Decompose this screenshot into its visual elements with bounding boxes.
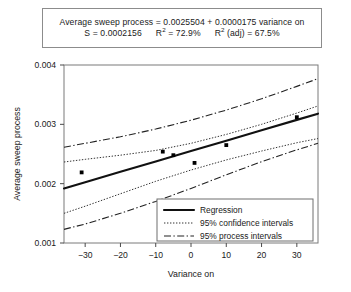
x-tick-label: −10 [148, 250, 163, 260]
caption-equation: Average sweep process = 0.0025504 + 0.00… [60, 17, 305, 28]
caption-r-squared: R2 = 72.9% [156, 28, 201, 39]
plot-svg: −30−20−100102030 0.0010.0020.0030.004 Re… [0, 52, 351, 292]
x-tick-label: 10 [221, 250, 231, 260]
regression-caption-box: Average sweep process = 0.0025504 + 0.00… [42, 8, 322, 48]
data-point [193, 161, 197, 165]
curve [64, 79, 318, 148]
data-points [80, 115, 299, 174]
legend-label: 95% process intervals [200, 231, 282, 241]
curve [64, 106, 318, 162]
curve [64, 114, 318, 189]
y-tick-label: 0.001 [34, 238, 56, 248]
data-point [171, 153, 175, 157]
data-point [161, 150, 165, 154]
y-tick-label: 0.003 [34, 119, 56, 129]
y-axis-label: Average sweep process [12, 107, 22, 201]
legend-label: 95% confidence intervals [200, 218, 293, 228]
y-tick-label: 0.004 [34, 60, 56, 70]
x-tick-label: 20 [257, 250, 267, 260]
data-point [224, 143, 228, 147]
y-tick-label: 0.002 [34, 179, 56, 189]
scatter-plot: −30−20−100102030 0.0010.0020.0030.004 Re… [0, 52, 351, 292]
x-tick-label: 0 [189, 250, 194, 260]
x-axis-ticks: −30−20−100102030 [78, 243, 302, 260]
data-point [295, 115, 299, 119]
data-point [80, 170, 84, 174]
caption-s-value: S = 0.0002156 [84, 28, 141, 39]
chart-legend[interactable]: Regression95% confidence intervals95% pr… [157, 199, 313, 241]
caption-r-squared-adj: R2 (adj) = 67.5% [215, 28, 280, 39]
legend-label: Regression [200, 205, 243, 215]
x-axis-label: Variance on [168, 269, 214, 279]
figure-root: Average sweep process = 0.0025504 + 0.00… [0, 0, 351, 292]
x-tick-label: −30 [78, 250, 93, 260]
caption-statistics: S = 0.0002156 R2 = 72.9% R2 (adj) = 67.5… [84, 28, 279, 39]
y-axis-ticks: 0.0010.0020.0030.004 [34, 60, 64, 248]
x-tick-label: 30 [292, 250, 302, 260]
x-tick-label: −20 [113, 250, 128, 260]
